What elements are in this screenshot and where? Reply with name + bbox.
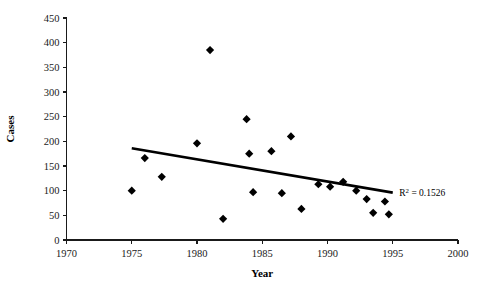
y-tick-label: 0	[54, 235, 59, 246]
chart-canvas: 050100150200250300350400450 197019751980…	[0, 0, 497, 290]
y-tick-label: 250	[44, 111, 60, 122]
y-tick-label: 450	[44, 13, 60, 24]
data-point	[245, 150, 253, 158]
x-tick-label: 1995	[382, 248, 403, 259]
y-tick-label: 50	[49, 210, 60, 221]
x-tick-label: 1970	[56, 248, 77, 259]
y-axis: 050100150200250300350400450	[44, 13, 67, 246]
x-tick-label: 2000	[448, 248, 469, 259]
y-tick-label: 100	[44, 185, 60, 196]
x-tick-label: 1980	[187, 248, 208, 259]
data-point	[287, 132, 295, 140]
x-axis: 1970197519801985199019952000	[56, 240, 469, 259]
trend-line	[132, 148, 393, 192]
data-point	[363, 195, 371, 203]
data-point	[219, 215, 227, 223]
data-point	[297, 205, 305, 213]
x-tick-label: 1975	[121, 248, 142, 259]
data-point	[206, 46, 214, 54]
y-tick-label: 200	[44, 136, 60, 147]
y-tick-label: 350	[44, 62, 60, 73]
data-point	[249, 188, 257, 196]
r-squared-suffix: = 0.1526	[409, 188, 445, 198]
data-point	[326, 183, 334, 191]
x-axis-title: Year	[251, 267, 273, 279]
x-axis-tick-labels: 1970197519801985199019952000	[56, 248, 469, 259]
scatter-chart: 050100150200250300350400450 197019751980…	[0, 0, 497, 290]
r-squared-annotation: R2 = 0.1526	[399, 187, 445, 199]
x-axis-ticks	[67, 240, 459, 244]
data-points	[128, 46, 393, 223]
data-point	[141, 154, 149, 162]
y-axis-tick-labels: 050100150200250300350400450	[44, 13, 60, 246]
data-point	[369, 209, 377, 217]
y-tick-label: 150	[44, 161, 60, 172]
y-axis-ticks	[63, 18, 67, 240]
data-point	[128, 187, 136, 195]
y-axis-title: Cases	[4, 115, 16, 143]
data-point	[267, 147, 275, 155]
x-tick-label: 1985	[252, 248, 273, 259]
data-point	[193, 139, 201, 147]
data-point	[385, 210, 393, 218]
y-tick-label: 300	[44, 87, 60, 98]
y-tick-label: 400	[44, 37, 60, 48]
x-tick-label: 1990	[317, 248, 338, 259]
data-point	[242, 115, 250, 123]
data-point	[158, 173, 166, 181]
data-point	[381, 197, 389, 205]
data-point	[278, 189, 286, 197]
